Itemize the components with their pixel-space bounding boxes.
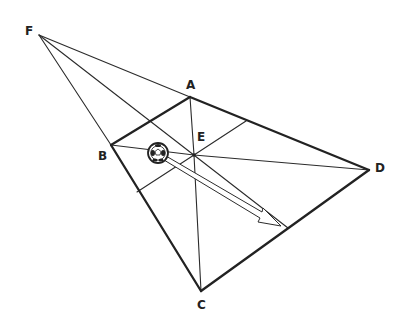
line-E-A (190, 97, 194, 155)
point-labels: F A B C D E (25, 24, 385, 312)
arrow-shape (164, 156, 281, 226)
direction-arrow (164, 156, 281, 226)
geometry-diagram: F A B C D E (0, 0, 403, 328)
soccer-ball-icon (148, 143, 168, 163)
line-F-A (39, 35, 190, 97)
label-A: A (186, 78, 196, 92)
side-AB (111, 97, 190, 145)
side-CD (201, 170, 369, 291)
point-E-dot (192, 153, 196, 157)
line-F-E-extended (39, 35, 288, 228)
line-E-D (194, 155, 369, 170)
side-AD (190, 97, 369, 170)
construction-lines (39, 35, 369, 291)
quadrilateral-ABCD (111, 97, 369, 291)
side-BC (111, 145, 201, 291)
label-E: E (197, 130, 205, 144)
label-B: B (98, 149, 107, 163)
label-C: C (197, 298, 206, 312)
label-D: D (375, 161, 385, 175)
label-F: F (25, 24, 33, 38)
line-F-B (39, 35, 111, 145)
